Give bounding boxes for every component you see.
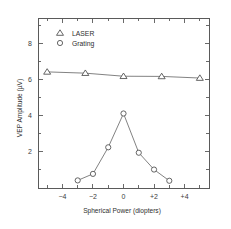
x-tick-label: +2: [150, 193, 158, 200]
x-axis-title: Spherical Power (diopters): [83, 207, 161, 215]
data-point: [167, 178, 172, 183]
y-tick-label: 2: [28, 148, 32, 155]
data-point: [136, 150, 141, 155]
vep-amplitude-line-chart: −4−20+2+4 2468 Spherical Power (diopters…: [0, 0, 231, 229]
y-axis-title: VEP Amplitude (µV): [16, 79, 24, 137]
x-tick-label: −2: [89, 193, 97, 200]
x-tick-label: −4: [58, 193, 66, 200]
legend-label-laser: LASER: [72, 30, 94, 37]
x-tick-label: 0: [122, 193, 126, 200]
data-point: [106, 145, 111, 150]
y-tick-label: 4: [28, 112, 32, 119]
data-point: [75, 178, 80, 183]
data-point: [151, 167, 156, 172]
y-tick-label: 8: [28, 40, 32, 47]
figure-background: [0, 0, 231, 229]
data-point: [121, 111, 126, 116]
legend-label-grating: Grating: [72, 40, 95, 48]
y-tick-label: 6: [28, 76, 32, 83]
x-tick-label: +4: [181, 193, 189, 200]
legend-marker-grating: [57, 40, 62, 45]
data-point: [90, 171, 95, 176]
chart-figure: −4−20+2+4 2468 Spherical Power (diopters…: [0, 0, 231, 229]
